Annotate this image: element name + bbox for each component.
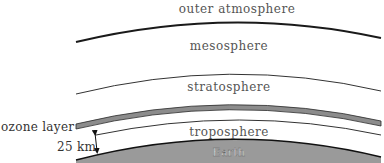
earth-label: Earth [213,146,246,159]
troposphere-label: troposphere [189,125,269,139]
outer-atmosphere-label: outer atmosphere [179,2,296,16]
height-label: 25 km [57,140,97,154]
mesosphere-label: mesosphere [190,39,268,53]
ozone-layer-label: ozone layer [1,120,74,134]
stratosphere-label: stratosphere [187,80,270,94]
atmosphere-diagram: outer atmosphere mesosphere stratosphere… [0,0,384,163]
